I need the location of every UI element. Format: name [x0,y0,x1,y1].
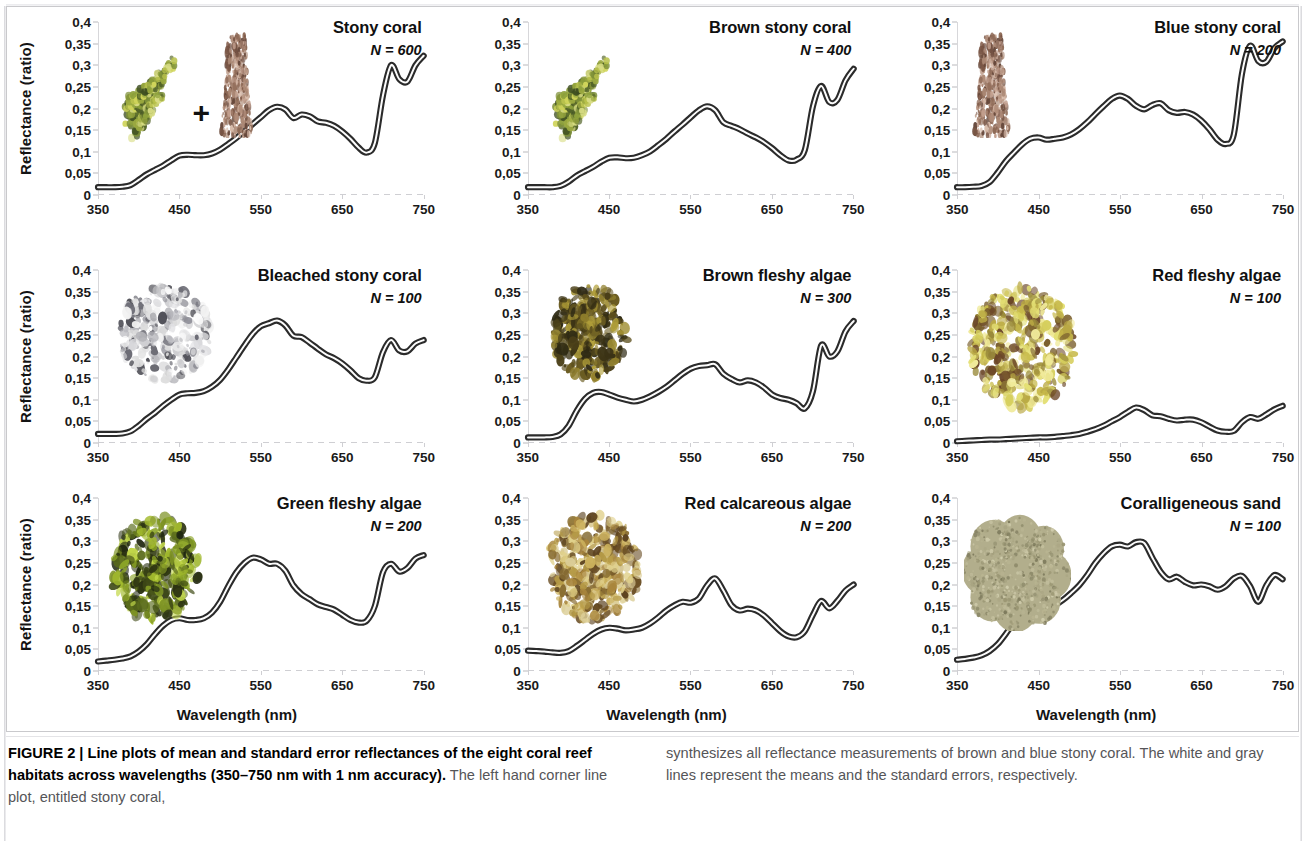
y-tick-label: 0,1 [502,392,521,407]
y-tick-label: 0 [943,436,951,451]
x-tick-mark [609,671,610,675]
x-tick-label: 450 [1027,450,1050,465]
x-tick-mark [1039,443,1040,447]
x-tick-mark [528,671,529,675]
y-tick-label: 0,35 [494,36,520,51]
panel-sample-size: N = 200 [1230,42,1281,58]
y-tick-label: 0,2 [72,349,91,364]
y-tick-label: 0,2 [502,577,521,592]
panel-title: Brown stony coral [709,18,851,37]
x-tick-mark [1202,671,1203,675]
x-tick-mark [853,195,854,199]
panel-blue-stony-coral: Reflectance (ratio)00,050,10,150,20,250,… [867,8,1297,256]
x-tick-label: 650 [1190,450,1213,465]
panel-sample-size: N = 300 [800,290,851,306]
x-tick-mark [424,195,425,199]
x-tick-label: 450 [1027,202,1050,217]
x-tick-mark [853,443,854,447]
x-tick-label: 450 [1027,678,1050,693]
y-tick-label: 0,35 [494,284,520,299]
panel-sample-size: N = 600 [370,42,421,58]
y-tick-label: 0,4 [502,263,521,278]
y-tick-label: 0,25 [65,327,91,342]
x-tick-label: 750 [1272,450,1295,465]
x-tick-label: 450 [598,450,621,465]
y-tick-label: 0,3 [932,534,951,549]
panel-sample-size: N = 200 [370,518,421,534]
x-tick-label: 650 [1190,678,1213,693]
x-tick-mark [690,195,691,199]
panel-sample-size: N = 100 [1230,518,1281,534]
y-tick-label: 0,3 [502,58,521,73]
x-tick-mark [1283,443,1284,447]
y-tick-label: 0,2 [932,577,951,592]
x-axis-label: Wavelength (nm) [472,706,862,723]
y-tick-label: 0,3 [72,58,91,73]
y-tick-label: 0 [83,664,91,679]
panel-title: Coralligeneous sand [1121,494,1281,513]
y-tick-label: 0,15 [494,123,520,138]
x-tick-label: 450 [168,202,191,217]
x-tick-label: 550 [250,202,273,217]
y-tick-label: 0 [943,664,951,679]
y-tick-label: 0,2 [932,101,951,116]
y-tick-label: 0 [83,188,91,203]
y-tick-label: 0,25 [65,79,91,94]
x-tick-mark [609,195,610,199]
y-axis-label-text: Reflectance (ratio) [17,290,34,423]
panel-stony-coral: Reflectance (ratio)00,050,10,150,20,250,… [8,8,438,256]
x-tick-mark [179,195,180,199]
y-tick-label: 0,4 [72,263,91,278]
y-tick-label: 0,35 [65,36,91,51]
x-tick-label: 550 [250,678,273,693]
x-tick-label: 350 [87,202,110,217]
panel-title: Bleached stony coral [258,266,422,285]
x-tick-mark [1120,443,1121,447]
panel-title: Green fleshy algae [277,494,422,513]
y-tick-label: 0,15 [924,371,950,386]
plot-area: 00,050,10,150,20,250,30,350,435045055065… [901,260,1291,475]
x-tick-mark [690,671,691,675]
x-tick-label: 750 [412,678,435,693]
y-axis-label: Reflectance (ratio) [14,484,36,684]
y-tick-label: 0,2 [502,349,521,364]
x-tick-label: 450 [168,678,191,693]
x-tick-label: 350 [87,450,110,465]
x-tick-mark [342,671,343,675]
plus-icon: + [192,98,210,128]
panel-red-fleshy-algae: Reflectance (ratio)00,050,10,150,20,250,… [867,256,1297,484]
y-tick-label: 0,35 [65,284,91,299]
panel-title: Red calcareous algae [685,494,852,513]
x-tick-label: 750 [412,202,435,217]
panel-title: Blue stony coral [1154,18,1281,37]
x-tick-label: 650 [1190,202,1213,217]
panel-bleached-stony-coral: Reflectance (ratio)00,050,10,150,20,250,… [8,256,438,484]
caption-column-left: FIGURE 2 | Line plots of mean and standa… [8,742,636,846]
plot-area: 00,050,10,150,20,250,30,350,435045055065… [472,260,862,475]
plot-area: 00,050,10,150,20,250,30,350,435045055065… [901,12,1291,227]
caption-left-text: FIGURE 2 | Line plots of mean and standa… [8,742,636,809]
y-tick-label: 0,15 [924,123,950,138]
x-tick-mark [179,671,180,675]
x-tick-label: 550 [679,450,702,465]
caption-right-text: synthesizes all reflectance measurements… [666,742,1294,786]
y-tick-label: 0,2 [72,577,91,592]
x-tick-mark [772,195,773,199]
x-tick-label: 350 [946,202,969,217]
plot-area: 00,050,10,150,20,250,30,350,435045055065… [42,488,432,703]
y-tick-label: 0,4 [502,491,521,506]
x-tick-mark [957,671,958,675]
x-tick-mark [261,443,262,447]
panel-sample-size: N = 200 [800,518,851,534]
y-tick-label: 0,4 [72,491,91,506]
right-rail [1300,6,1302,841]
y-tick-label: 0 [513,664,521,679]
y-tick-label: 0,3 [72,534,91,549]
y-tick-label: 0,35 [494,512,520,527]
x-tick-mark [261,195,262,199]
panel-green-fleshy-algae: Reflectance (ratio)00,050,10,150,20,250,… [8,484,438,730]
x-axis-label: Wavelength (nm) [901,706,1291,723]
y-tick-label: 0,4 [932,491,951,506]
x-tick-mark [528,443,529,447]
x-tick-label: 750 [1272,202,1295,217]
